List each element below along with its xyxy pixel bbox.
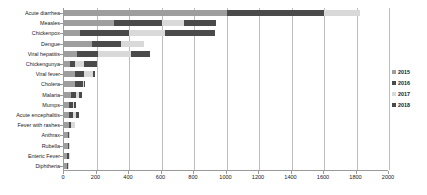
legend-label: 2015	[398, 69, 410, 75]
bar-segment-2015	[64, 92, 71, 98]
bar-row	[64, 132, 70, 138]
bar-segment-2015	[64, 81, 75, 87]
bar-segment-2015	[64, 71, 75, 77]
bar-segment-2017	[324, 10, 360, 16]
bar-row	[64, 153, 70, 159]
bar-segment-2018	[76, 112, 79, 118]
y-axis-category-label: Chickengunya	[0, 61, 60, 67]
bar-row	[64, 30, 215, 36]
bar-row	[64, 61, 97, 67]
bar-segment-2016	[227, 10, 325, 16]
x-axis-tick	[161, 171, 162, 174]
legend-item-2018[interactable]: 2018	[392, 99, 427, 110]
bar-segment-2018	[74, 102, 75, 108]
bar-segment-2017	[68, 163, 69, 169]
x-axis-tick	[96, 171, 97, 174]
y-axis-labels: Acute diarrheaMeaslesChickenpoxDengueVir…	[0, 8, 60, 171]
legend-swatch-icon	[392, 70, 396, 74]
y-axis-category-label: Viral hepatitis	[0, 51, 60, 57]
y-axis-category-label: Mumps	[0, 102, 60, 108]
y-axis-category-label: Fever with rashes	[0, 122, 60, 128]
bar-segment-2018	[93, 71, 95, 77]
x-axis-tick-label: 2000	[382, 173, 394, 181]
x-axis-tick-label: 1400	[284, 173, 296, 181]
stacked-bar-chart: Acute diarrheaMeaslesChickenpoxDengueVir…	[0, 0, 427, 195]
bar-segment-2018	[131, 51, 151, 57]
y-axis-tick	[60, 105, 63, 106]
x-axis-tick-label: 400	[123, 173, 132, 181]
bar-segment-2015	[64, 51, 77, 57]
legend-item-2017[interactable]: 2017	[392, 88, 427, 99]
bar-row	[64, 102, 76, 108]
y-axis-category-label: Cholera	[0, 81, 60, 87]
bar-row	[64, 10, 360, 16]
legend-label: 2017	[398, 91, 410, 97]
x-axis-labels: 0200400600800100012001400160018002000	[0, 173, 427, 185]
legend-swatch-icon	[392, 103, 396, 107]
legend-swatch-icon	[392, 92, 396, 96]
y-axis-category-label: Malaria	[0, 92, 60, 98]
bar-segment-2018	[165, 30, 215, 36]
y-axis-tick	[60, 33, 63, 34]
x-axis-tick-label: 1600	[317, 173, 329, 181]
y-axis-category-label: Chickenpox	[0, 30, 60, 36]
x-axis-tick-label: 1800	[349, 173, 361, 181]
x-axis-tick-label: 600	[156, 173, 165, 181]
x-axis-tick-label: 200	[91, 173, 100, 181]
bar-segment-2017	[69, 153, 70, 159]
x-axis-tick-label: 1000	[219, 173, 231, 181]
bar-segment-2016	[75, 81, 82, 87]
y-axis-tick	[60, 115, 63, 116]
bar-row	[64, 92, 82, 98]
bar-row	[64, 51, 150, 57]
bar-row	[64, 163, 69, 169]
y-axis-tick	[60, 156, 63, 157]
bar-segment-2015	[64, 10, 227, 16]
bar-row	[64, 122, 75, 128]
bar-segment-2015	[64, 30, 80, 36]
y-axis-category-label: Enteric Fever	[0, 153, 60, 159]
y-axis-tick	[60, 146, 63, 147]
bar-segment-2017	[121, 41, 145, 47]
bar-row	[64, 20, 216, 26]
y-axis-tick	[60, 166, 63, 167]
x-axis-tick	[323, 171, 324, 174]
chart-legend: 2015201620172018	[392, 66, 427, 110]
legend-item-2015[interactable]: 2015	[392, 66, 427, 77]
gridline	[389, 8, 390, 170]
y-axis-category-label: Diphtheria	[0, 163, 60, 169]
bar-segment-2016	[80, 30, 129, 36]
bar-row	[64, 71, 95, 77]
y-axis-category-label: Acute encephalitis	[0, 112, 60, 118]
legend-label: 2018	[398, 102, 410, 108]
x-axis-tick	[291, 171, 292, 174]
bar-row	[64, 41, 144, 47]
bar-segment-2016	[92, 41, 121, 47]
x-axis-tick	[356, 171, 357, 174]
y-axis-category-label: Anthrax	[0, 132, 60, 138]
y-axis-tick	[60, 95, 63, 96]
y-axis-tick	[60, 74, 63, 75]
y-axis-category-label: Rubella	[0, 143, 60, 149]
bar-segment-2018	[184, 20, 216, 26]
legend-label: 2016	[398, 80, 410, 86]
y-axis-category-label: Acute diarrhea	[0, 10, 60, 16]
x-axis-tick-label: 800	[188, 173, 197, 181]
x-axis-tick-label: 1200	[252, 173, 264, 181]
x-axis-tick	[258, 171, 259, 174]
y-axis-tick	[60, 13, 63, 14]
bar-segment-2016	[114, 20, 161, 26]
bar-segment-2017	[69, 132, 70, 138]
bar-row	[64, 81, 85, 87]
bar-segment-2018	[84, 61, 96, 67]
legend-item-2016[interactable]: 2016	[392, 77, 427, 88]
y-axis-tick	[60, 44, 63, 45]
x-axis-tick	[63, 171, 64, 174]
bar-row	[64, 112, 79, 118]
bar-row	[64, 143, 70, 149]
y-axis-category-label: Viral fever	[0, 71, 60, 77]
y-axis-tick	[60, 54, 63, 55]
bar-segment-2017	[69, 143, 70, 149]
x-axis-tick	[193, 171, 194, 174]
bar-segment-2017	[75, 61, 84, 67]
